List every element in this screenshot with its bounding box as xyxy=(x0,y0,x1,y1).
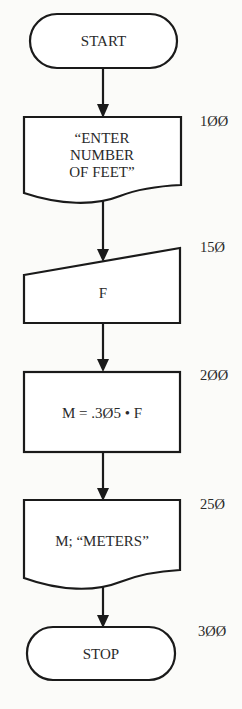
stop-text: STOP xyxy=(83,646,119,662)
arrowhead-icon xyxy=(97,359,109,372)
line-number-100: 1ØØ xyxy=(200,113,228,129)
input-text: F xyxy=(99,285,107,301)
flowchart: START “ENTER NUMBER OF FEET” 1ØØ F 15Ø M… xyxy=(0,0,242,709)
arrow-prompt-to-input xyxy=(97,201,109,262)
start-text: START xyxy=(81,33,126,49)
prompt-line-2: NUMBER xyxy=(70,147,134,163)
prompt-line-3: OF FEET” xyxy=(69,164,134,180)
stop-node: STOP xyxy=(27,627,175,680)
prompt-node: “ENTER NUMBER OF FEET” xyxy=(24,117,181,203)
compute-text: M = .3Ø5 • F xyxy=(62,405,142,421)
line-number-250: 25Ø xyxy=(200,496,225,512)
line-number-150: 15Ø xyxy=(200,239,225,255)
line-number-200: 2ØØ xyxy=(200,367,228,383)
start-node: START xyxy=(30,14,177,68)
output-text: M; “METERS” xyxy=(55,533,149,549)
arrow-compute-to-output xyxy=(97,452,109,501)
compute-node: M = .3Ø5 • F xyxy=(24,372,180,452)
arrow-input-to-compute xyxy=(97,323,109,372)
line-number-300: 3ØØ xyxy=(198,623,226,639)
prompt-line-1: “ENTER xyxy=(75,130,130,146)
arrow-start-to-prompt xyxy=(97,68,109,118)
arrow-output-to-stop xyxy=(97,586,109,628)
output-node: M; “METERS” xyxy=(24,500,180,589)
